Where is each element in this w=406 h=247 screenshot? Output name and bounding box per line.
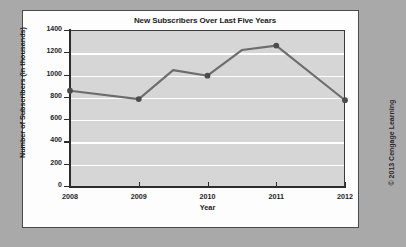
- data-point-marker: [205, 73, 211, 79]
- data-series: [0, 0, 406, 247]
- data-point-marker: [136, 96, 142, 102]
- data-point-marker: [273, 43, 279, 49]
- data-point-marker: [67, 88, 73, 94]
- data-point-marker: [342, 97, 348, 103]
- copyright-credit: © 2013 Cengage Learning: [388, 56, 395, 186]
- figure: New Subscribers Over Last Five Years 020…: [0, 0, 406, 247]
- series-markers: [67, 43, 348, 103]
